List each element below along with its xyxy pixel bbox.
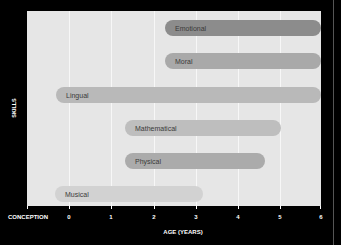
bar-physical: Physical xyxy=(125,153,265,169)
tick-mark xyxy=(238,206,239,209)
tick-mark xyxy=(111,206,112,209)
tick-mark xyxy=(196,206,197,209)
bar-label: Lingual xyxy=(56,92,89,99)
tick-mark xyxy=(280,206,281,209)
bar-musical: Musical xyxy=(55,186,203,202)
x-tick-conception: CONCEPTION xyxy=(8,214,48,220)
tick-mark xyxy=(27,206,28,209)
x-tick-1: 1 xyxy=(109,214,112,220)
gridline xyxy=(154,11,155,206)
bar-label: Musical xyxy=(55,191,89,198)
bar-mathematical: Mathematical xyxy=(125,120,281,136)
x-tick-0: 0 xyxy=(67,214,70,220)
tick-mark xyxy=(320,206,321,209)
bar-label: Moral xyxy=(165,58,193,65)
bar-label: Emotional xyxy=(165,25,206,32)
x-axis-label: AGE (YEARS) xyxy=(163,229,202,235)
gridline xyxy=(238,11,239,206)
x-tick-6: 6 xyxy=(319,214,322,220)
tick-mark xyxy=(154,206,155,209)
divider xyxy=(333,0,334,245)
gridline xyxy=(69,11,70,206)
tick-mark xyxy=(69,206,70,209)
bar-moral: Moral xyxy=(165,53,321,69)
x-tick-3: 3 xyxy=(194,214,197,220)
plot-area: Emotional Moral Lingual Mathematical Phy… xyxy=(27,11,321,206)
bar-lingual: Lingual xyxy=(56,87,321,103)
gridline xyxy=(280,11,281,206)
x-tick-4: 4 xyxy=(236,214,239,220)
gridline xyxy=(196,11,197,206)
y-axis-label: SKILLS xyxy=(11,98,17,118)
x-tick-5: 5 xyxy=(278,214,281,220)
bar-label: Mathematical xyxy=(125,125,177,132)
bar-emotional: Emotional xyxy=(165,20,321,36)
bar-label: Physical xyxy=(125,158,161,165)
x-tick-2: 2 xyxy=(152,214,155,220)
gridline xyxy=(111,11,112,206)
